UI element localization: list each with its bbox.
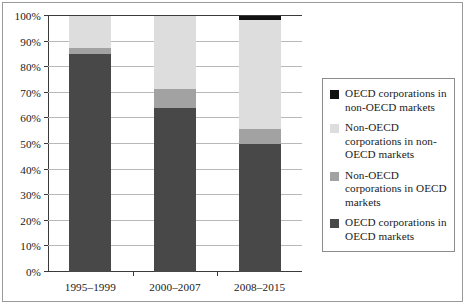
- y-axis-tick-label: 30%: [20, 189, 41, 201]
- legend-item[interactable]: OECD corporations in OECD markets: [330, 216, 447, 243]
- bar-segment[interactable]: [69, 48, 111, 54]
- legend-item[interactable]: OECD corporations in non-OECD markets: [330, 87, 447, 114]
- plot-area: 0%10%20%30%40%50%60%70%80%90%100% 1995–1…: [48, 16, 302, 272]
- y-axis-tick: [44, 169, 48, 170]
- y-axis-tick-label: 100%: [14, 10, 41, 22]
- x-axis-tick-label: 1995–1999: [65, 281, 116, 293]
- x-axis-tick: [133, 272, 134, 276]
- bar-segment[interactable]: [154, 108, 196, 272]
- y-axis-tick: [44, 92, 48, 93]
- legend-swatch-icon: [330, 124, 339, 133]
- y-axis-tick: [44, 41, 48, 42]
- y-axis-tick: [44, 117, 48, 118]
- bar-segment[interactable]: [239, 16, 281, 20]
- x-axis-tick-label: 2000–2007: [149, 281, 200, 293]
- y-axis-tick-label: 90%: [20, 36, 41, 48]
- x-axis-tick-label: 2008–2015: [234, 281, 285, 293]
- y-axis-tick: [44, 220, 48, 221]
- y-axis-tick-label: 0%: [26, 266, 41, 278]
- y-axis-tick-label: 60%: [20, 112, 41, 124]
- bar-column[interactable]: 2000–2007: [154, 16, 196, 272]
- x-axis-tick: [217, 272, 218, 276]
- y-axis-tick-label: 10%: [20, 240, 41, 252]
- legend-swatch-icon: [330, 219, 339, 228]
- bar-segment[interactable]: [239, 20, 281, 129]
- y-axis-tick: [44, 66, 48, 67]
- y-axis-tick: [44, 194, 48, 195]
- legend-item-label: Non-OECD corporations in OECD markets: [345, 169, 447, 210]
- y-axis-tick-label: 20%: [20, 215, 41, 227]
- y-axis-tick-label: 80%: [20, 61, 41, 73]
- legend-swatch-icon: [330, 172, 339, 181]
- bar-column[interactable]: 1995–1999: [69, 16, 111, 272]
- bar-segment[interactable]: [239, 129, 281, 144]
- chart-legend: OECD corporations in non-OECD marketsNon…: [322, 78, 455, 252]
- bar-segment[interactable]: [154, 16, 196, 89]
- legend-item-label: OECD corporations in non-OECD markets: [345, 87, 447, 114]
- bar-segment[interactable]: [154, 89, 196, 108]
- y-axis-tick: [44, 271, 48, 272]
- y-axis-tick-label: 40%: [20, 164, 41, 176]
- y-axis-tick-label: 70%: [20, 87, 41, 99]
- y-axis-tick-label: 50%: [20, 138, 41, 150]
- legend-item-label: Non-OECD corporations in non-OECD market…: [345, 121, 447, 162]
- legend-item[interactable]: Non-OECD corporations in non-OECD market…: [330, 121, 447, 162]
- legend-item-label: OECD corporations in OECD markets: [345, 216, 447, 243]
- legend-item[interactable]: Non-OECD corporations in OECD markets: [330, 169, 447, 210]
- bar-segment[interactable]: [69, 54, 111, 272]
- bar-column[interactable]: 2008–2015: [239, 16, 281, 272]
- y-axis-tick: [44, 245, 48, 246]
- bar-segment[interactable]: [69, 16, 111, 48]
- y-axis-tick: [44, 15, 48, 16]
- legend-swatch-icon: [330, 90, 339, 99]
- bar-segment[interactable]: [239, 144, 281, 272]
- y-axis-tick: [44, 143, 48, 144]
- chart-figure: 0%10%20%30%40%50%60%70%80%90%100% 1995–1…: [2, 2, 463, 302]
